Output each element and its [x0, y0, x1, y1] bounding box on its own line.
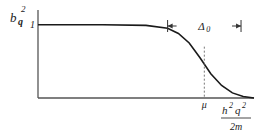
delta-label: Δ	[197, 20, 204, 32]
delta-label-sub: 0	[206, 25, 210, 34]
chart: b q 2 1 μ Δ 0 h 2 q 2 2m	[0, 0, 265, 136]
delta-annotation: Δ 0	[168, 20, 241, 34]
x-axis-label-q: q	[235, 104, 241, 116]
x-axis-label-q-sup: 2	[242, 101, 246, 110]
x-axis-label-h-sup: 2	[229, 101, 233, 110]
y-axis-label-base: b	[10, 10, 17, 25]
y-tick-label: 1	[30, 19, 35, 30]
x-axis-label-denominator: 2m	[230, 121, 242, 132]
delta-right-arrowhead	[236, 24, 241, 29]
y-axis-label-sub: q	[18, 16, 23, 27]
delta-left-arrowhead	[168, 24, 173, 29]
x-tick-label-mu: μ	[201, 99, 207, 110]
series-line	[38, 25, 254, 98]
x-axis-label-h: h	[222, 104, 228, 116]
y-axis-label-sup: 2	[21, 4, 26, 14]
